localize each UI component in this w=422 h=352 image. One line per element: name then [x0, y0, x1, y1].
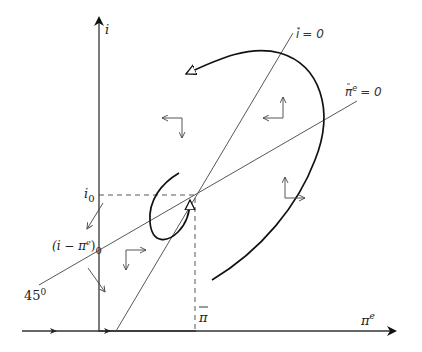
i-dot-zero-locus: [116, 33, 293, 331]
y-axis-label: i: [105, 22, 109, 37]
svg-text:450: 450: [24, 287, 47, 303]
vector-pair-upper-left: [162, 118, 182, 138]
spiral-outer: [186, 51, 324, 280]
vector-pair-upper-right: [263, 97, 283, 118]
svg-text:πe= 0: πe= 0: [345, 84, 382, 99]
vector-pair-lower-left: [126, 250, 146, 270]
angle-45-label: 450: [24, 287, 47, 303]
svg-text:π: π: [198, 310, 208, 325]
svg-text:i0: i0: [84, 186, 95, 204]
x-axis-label: πe: [360, 311, 375, 328]
i-dot-zero-label: i= 0: [296, 27, 324, 41]
pi-dot-zero-label: πe= 0: [345, 84, 382, 99]
diagonal-flow-lower: [88, 268, 105, 292]
phase-diagram: i πe i= 0 πe= 0 i0 (i − πe)0 450 π: [0, 0, 422, 352]
i0-label: i0: [84, 186, 95, 204]
pi-bar-label: π: [198, 307, 208, 325]
spiral-inner: [150, 173, 190, 240]
svg-text:πe: πe: [360, 311, 375, 328]
svg-text:i= 0: i= 0: [296, 27, 324, 41]
diagonal-flow-upper: [87, 203, 103, 229]
